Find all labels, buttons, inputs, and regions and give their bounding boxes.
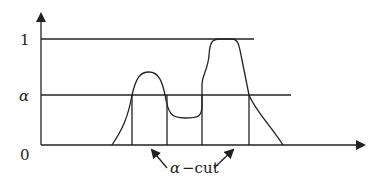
annotation-arrow-left: [152, 150, 167, 168]
annotation-alpha: α: [170, 159, 180, 177]
membership-curve: [112, 39, 283, 145]
label-zero: 0: [20, 146, 30, 164]
label-one: 1: [20, 31, 30, 49]
alpha-cut-diagram: 1 α 0 α −cut: [0, 0, 386, 184]
annotation-cut-label: −cut: [182, 159, 219, 177]
label-alpha: α: [19, 87, 29, 105]
